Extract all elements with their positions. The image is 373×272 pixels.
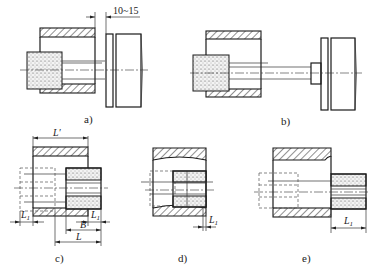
workpiece-wall-top bbox=[206, 31, 261, 39]
grinding-wheel-upper bbox=[66, 168, 101, 180]
wheel-ghost-position bbox=[20, 168, 55, 211]
caption-d: d) bbox=[178, 252, 188, 265]
dimension-B: B bbox=[80, 219, 86, 230]
grinding-wheel-lower bbox=[173, 196, 206, 207]
caption-e: e) bbox=[302, 252, 311, 265]
chuck-flange bbox=[106, 34, 113, 107]
grinding-wheel-upper bbox=[331, 174, 366, 186]
panel-e: L1 e) bbox=[254, 148, 370, 265]
panel-a: 10~15 a) bbox=[20, 5, 148, 126]
wheel-ghost-position bbox=[259, 173, 298, 208]
panel-b: b) bbox=[190, 31, 362, 128]
grinding-diagram-figure: 10~15 a) b) L′ bbox=[0, 0, 373, 272]
grinding-wheel-upper bbox=[173, 171, 206, 182]
chuck-flange bbox=[321, 38, 328, 110]
chuck-body bbox=[331, 38, 355, 110]
grinding-wheel bbox=[27, 52, 62, 89]
panel-c: L′ L1 L1 bbox=[10, 127, 110, 265]
caption-a: a) bbox=[84, 113, 93, 126]
caption-c: c) bbox=[55, 252, 64, 265]
dimension-L1: L1 bbox=[208, 214, 218, 227]
dimension-L-prime: L′ bbox=[52, 127, 62, 138]
dimension-L: L bbox=[75, 231, 82, 242]
grinding-wheel-lower bbox=[331, 198, 366, 209]
chuck-body bbox=[116, 34, 141, 107]
workpiece-wall-bottom bbox=[273, 208, 331, 217]
dimension-L1: L1 bbox=[343, 215, 353, 228]
workpiece-wall-top bbox=[40, 28, 95, 37]
dimension-L1-right: L1 bbox=[90, 209, 100, 222]
caption-b: b) bbox=[281, 115, 291, 128]
grinding-wheel-lower bbox=[66, 196, 101, 209]
workpiece-wall-top bbox=[273, 148, 331, 160]
wheel-ghost-position bbox=[150, 171, 175, 206]
dimension-10-15: 10~15 bbox=[113, 5, 138, 16]
workpiece-wall-top-concave bbox=[153, 148, 206, 160]
spindle-collar bbox=[311, 63, 321, 84]
panel-d: L1 d) bbox=[141, 148, 218, 265]
dimension-L1-left: L1 bbox=[20, 209, 30, 222]
workpiece-wall-top bbox=[33, 147, 88, 156]
